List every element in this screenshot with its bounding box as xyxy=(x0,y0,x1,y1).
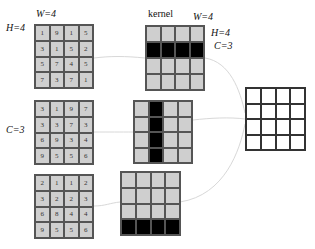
input-cell: 5 xyxy=(50,222,65,238)
input-width-label: W=4 xyxy=(36,8,56,19)
kernel-cell xyxy=(178,132,193,148)
channels-label: C=3 xyxy=(6,124,24,135)
input-cell: 2 xyxy=(64,191,79,207)
output-cell xyxy=(261,88,276,104)
input-cell: 2 xyxy=(79,41,94,57)
input-cell: 5 xyxy=(35,57,50,73)
input-cell: 6 xyxy=(79,222,94,238)
output-grid xyxy=(245,87,306,151)
output-cell xyxy=(261,104,276,120)
kernel-cell xyxy=(163,148,178,164)
input-grid-channel-2: 3197337369349556 xyxy=(34,100,94,165)
input-cell: 5 xyxy=(79,25,94,41)
input-cell: 1 xyxy=(50,175,65,191)
input-cell: 3 xyxy=(35,191,50,207)
input-cell: 9 xyxy=(64,101,79,117)
output-cell xyxy=(290,119,305,135)
kernel-highlight-cell xyxy=(165,219,180,235)
input-cell: 9 xyxy=(50,133,65,149)
input-cell: 3 xyxy=(79,191,94,207)
input-cell: 7 xyxy=(79,101,94,117)
kernel-highlight-cell xyxy=(121,219,136,235)
kernel-cell xyxy=(175,58,190,74)
kernel-cell xyxy=(146,74,161,90)
kernel-cell xyxy=(121,188,136,204)
input-cell: 7 xyxy=(50,57,65,73)
kernel-highlight-cell xyxy=(149,148,164,164)
output-cell xyxy=(290,88,305,104)
input-cell: 3 xyxy=(50,72,65,88)
input-cell: 1 xyxy=(35,25,50,41)
output-cell xyxy=(246,119,261,135)
kernel-cell xyxy=(178,148,193,164)
input-cell: 2 xyxy=(79,175,94,191)
input-cell: 3 xyxy=(35,41,50,57)
input-grid-channel-3: 2112322368449556 xyxy=(34,174,94,239)
kernel-cell xyxy=(161,58,176,74)
input-cell: 5 xyxy=(50,148,65,164)
kernel-highlight-cell xyxy=(151,219,166,235)
kernel-height-label: H=4 xyxy=(211,27,230,38)
input-cell: 9 xyxy=(35,222,50,238)
kernel-cell xyxy=(136,172,151,188)
output-cell xyxy=(246,104,261,120)
output-cell xyxy=(276,119,291,135)
output-cell xyxy=(276,104,291,120)
kernel-cell xyxy=(163,117,178,133)
kernel-highlight-cell xyxy=(161,42,176,58)
kernel-width-label: W=4 xyxy=(193,11,213,22)
kernel-cell xyxy=(134,132,149,148)
kernel-highlight-cell xyxy=(190,42,205,58)
input-cell: 1 xyxy=(50,41,65,57)
input-cell: 4 xyxy=(79,207,94,223)
input-height-label: H=4 xyxy=(6,22,25,33)
input-cell: 3 xyxy=(64,133,79,149)
kernel-grid-2 xyxy=(133,100,193,164)
kernel-cell xyxy=(134,101,149,117)
kernel-cell xyxy=(163,101,178,117)
input-cell: 9 xyxy=(50,25,65,41)
input-cell: 8 xyxy=(50,207,65,223)
input-cell: 3 xyxy=(35,101,50,117)
kernel-cell xyxy=(178,101,193,117)
output-cell xyxy=(290,135,305,151)
kernel-cell xyxy=(121,204,136,220)
kernel-cell xyxy=(175,74,190,90)
input-cell: 5 xyxy=(64,148,79,164)
kernel-cell xyxy=(151,188,166,204)
kernel-cell xyxy=(136,204,151,220)
kernel-cell xyxy=(161,26,176,42)
kernel-cell xyxy=(121,172,136,188)
kernel-cell xyxy=(190,74,205,90)
input-cell: 7 xyxy=(64,72,79,88)
input-cell: 7 xyxy=(64,117,79,133)
input-cell: 4 xyxy=(64,57,79,73)
input-cell: 6 xyxy=(35,133,50,149)
kernel-cell xyxy=(134,117,149,133)
kernel-title: kernel xyxy=(148,8,173,19)
input-cell: 2 xyxy=(50,191,65,207)
input-cell: 1 xyxy=(64,175,79,191)
kernel-cell xyxy=(178,117,193,133)
kernel-cell xyxy=(146,26,161,42)
kernel-channel-label: C=3 xyxy=(214,40,232,51)
kernel-cell xyxy=(136,188,151,204)
kernel-highlight-cell xyxy=(146,42,161,58)
input-cell: 4 xyxy=(79,133,94,149)
input-cell: 1 xyxy=(64,25,79,41)
input-cell: 1 xyxy=(50,101,65,117)
input-cell: 1 xyxy=(79,72,94,88)
input-grid-channel-1: 1915315257457371 xyxy=(34,24,94,89)
kernel-cell xyxy=(165,172,180,188)
output-cell xyxy=(246,135,261,151)
input-cell: 3 xyxy=(50,117,65,133)
input-cell: 9 xyxy=(35,148,50,164)
kernel-cell xyxy=(146,58,161,74)
output-cell xyxy=(290,104,305,120)
output-cell xyxy=(276,135,291,151)
input-cell: 3 xyxy=(35,117,50,133)
kernel-cell xyxy=(165,188,180,204)
output-cell xyxy=(276,88,291,104)
kernel-highlight-cell xyxy=(149,132,164,148)
kernel-cell xyxy=(161,74,176,90)
